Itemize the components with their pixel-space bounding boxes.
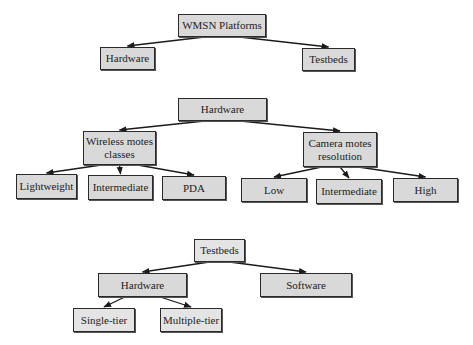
edge-wmsn-to-tb1 [240, 37, 329, 47]
node-label: Lightweight [20, 180, 74, 193]
node-label: Intermediate [321, 185, 377, 198]
edge-wmc-to-im1 [120, 165, 121, 174]
node-lightweight: Lightweight [16, 174, 77, 199]
node-testbeds: Testbeds [302, 48, 355, 71]
node-label: Camera motes resolution [304, 137, 376, 163]
node-intermediate-wireless: Intermediate [88, 175, 153, 200]
node-label: Hardware [201, 103, 244, 116]
edge-wmc-to-pda [138, 165, 194, 175]
node-multiple-tier: Multiple-tier [160, 308, 222, 332]
node-software: Software [260, 273, 352, 297]
edge-hw2-to-cmr [240, 121, 340, 131]
node-label: WMSN Platforms [182, 19, 262, 32]
node-testbeds-hardware: Hardware [98, 273, 187, 297]
edge-cmr-to-im2 [340, 167, 349, 178]
node-camera-motes-resolution: Camera motes resolution [303, 132, 377, 167]
node-label: Low [264, 184, 284, 197]
node-label: Hardware [121, 279, 164, 292]
node-label: Multiple-tier [163, 314, 219, 327]
node-wmsn-platforms: WMSN Platforms [178, 14, 266, 37]
diagram-canvas: WMSN Platforms Hardware Testbeds Hardwar… [0, 0, 473, 345]
node-label: Software [286, 279, 326, 292]
edge-hw2-to-wmc [120, 121, 205, 130]
edge-hw3-to-st [104, 297, 125, 307]
node-pda: PDA [162, 176, 226, 200]
node-hardware-root: Hardware [178, 98, 267, 121]
node-label: Wireless motes classes [84, 135, 155, 161]
node-label: Hardware [106, 52, 149, 65]
node-label: Single-tier [81, 314, 127, 327]
node-label: High [415, 184, 437, 197]
node-hardware: Hardware [100, 47, 155, 70]
edge-cmr-to-high [359, 167, 426, 177]
edge-hw3-to-mt [160, 297, 191, 307]
node-label: Testbeds [200, 244, 238, 257]
edge-cmr-to-low [274, 167, 322, 177]
node-label: Testbeds [309, 53, 347, 66]
edge-wmsn-to-hw1 [128, 37, 205, 46]
node-wireless-motes-classes: Wireless motes classes [83, 131, 156, 165]
edges-layer [0, 0, 473, 345]
edge-tb3-to-hw3 [143, 262, 210, 272]
node-label: PDA [183, 182, 205, 195]
edge-tb3-to-sw [230, 262, 306, 272]
node-label: Intermediate [93, 181, 149, 194]
node-testbeds-root: Testbeds [194, 239, 245, 262]
edge-wmc-to-lw [47, 165, 102, 173]
node-high: High [393, 178, 458, 202]
node-intermediate-camera: Intermediate [316, 179, 382, 204]
node-single-tier: Single-tier [73, 308, 135, 332]
node-low: Low [241, 178, 307, 202]
